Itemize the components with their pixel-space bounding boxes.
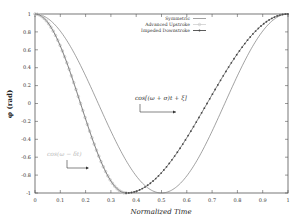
series-advanced-upstroke — [34, 13, 288, 195]
x-tick-label: 0.9 — [259, 197, 267, 203]
x-tick-label: 1 — [286, 197, 289, 203]
legend-label: Advanced Upstroke — [144, 22, 190, 27]
x-tick-label: 0.5 — [158, 197, 166, 203]
x-tick-label: 0.7 — [208, 197, 216, 203]
series-symmetric — [35, 14, 288, 193]
x-tick-label: 0.3 — [107, 197, 115, 203]
y-axis-ticks: 10.80.60.40.20-0.2-0.4-0.6-0.8-1 — [21, 11, 288, 196]
x-tick-label: 0.4 — [132, 197, 140, 203]
legend-label: Impeded Downstroke — [141, 28, 190, 33]
chart: 00.10.20.30.40.50.60.70.80.91 10.80.60.4… — [0, 0, 303, 222]
plot-frame — [35, 14, 288, 193]
y-tick-label: -0.6 — [21, 154, 31, 160]
annotations: cos[(ω + σ)t + ξ]cos(ω − δt) — [47, 94, 187, 170]
y-tick-label: -0.2 — [21, 118, 31, 124]
data-series — [34, 13, 289, 195]
x-tick-label: 0 — [33, 197, 36, 203]
y-tick-label: 0 — [28, 100, 31, 106]
y-tick-label: 0.6 — [23, 47, 31, 53]
x-tick-label: 0.1 — [56, 197, 64, 203]
y-tick-label: -0.4 — [21, 136, 31, 142]
x-tick-label: 0.8 — [233, 197, 241, 203]
y-tick-label: -0.8 — [21, 172, 31, 178]
y-axis-label: φ (rad) — [5, 90, 14, 119]
y-tick-label: 0.2 — [23, 82, 31, 88]
legend: SymmetricAdvanced UpstrokeImpeded Downst… — [141, 16, 206, 33]
y-tick-label: 0.4 — [23, 64, 31, 70]
x-axis-ticks: 00.10.20.30.40.50.60.70.80.91 — [33, 14, 289, 203]
y-tick-label: -1 — [26, 190, 31, 196]
y-tick-label: 1 — [28, 11, 31, 17]
y-tick-label: 0.8 — [23, 29, 31, 35]
series-impeded-downstroke — [35, 13, 289, 194]
x-axis-label: Normalized Time — [129, 208, 191, 216]
legend-label: Symmetric — [165, 16, 190, 21]
annotation-advanced: cos(ω − δt) — [47, 150, 82, 157]
x-tick-label: 0.2 — [82, 197, 90, 203]
x-tick-label: 0.6 — [183, 197, 191, 203]
annotation-impeded: cos[(ω + σ)t + ξ] — [135, 94, 187, 102]
